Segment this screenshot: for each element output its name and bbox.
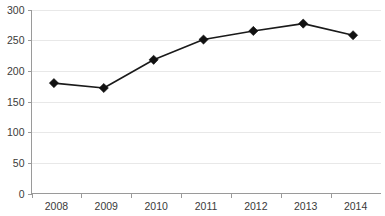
- y-tick-label: 250: [7, 34, 25, 46]
- y-tick-label: 50: [13, 157, 25, 169]
- line-chart: 050100150200250300 200820092010201120122…: [0, 0, 385, 216]
- x-tick-label: 2010: [144, 200, 168, 212]
- chart-canvas: 050100150200250300 200820092010201120122…: [0, 0, 385, 216]
- y-tick-label: 100: [7, 126, 25, 138]
- y-tick-label: 200: [7, 65, 25, 77]
- x-tick-label: 2014: [344, 200, 368, 212]
- x-tick-label: 2013: [294, 200, 318, 212]
- x-tick-label: 2008: [45, 200, 69, 212]
- x-tick-label: 2012: [244, 200, 268, 212]
- x-tick-label: 2011: [195, 200, 218, 212]
- y-tick-label: 0: [19, 188, 25, 200]
- y-tick-label: 300: [7, 4, 25, 16]
- x-tick-label: 2009: [95, 200, 119, 212]
- chart-background: [0, 0, 385, 216]
- y-tick-label: 150: [7, 96, 25, 108]
